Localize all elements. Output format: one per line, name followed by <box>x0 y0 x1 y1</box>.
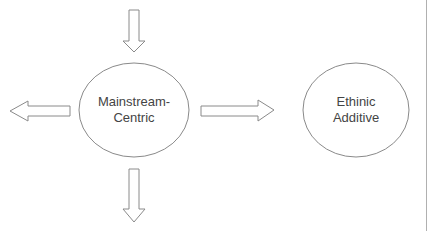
arrow-down-icon <box>123 10 145 52</box>
node-ethnic-additive-label: Ethinic Additive <box>301 94 411 126</box>
node-label-line-1: Mainstream- <box>79 94 189 110</box>
node-label-line-2: Additive <box>301 110 411 126</box>
node-label-line-2: Centric <box>79 110 189 126</box>
diagram-canvas: Mainstream- Centric Ethinic Additive <box>0 0 428 231</box>
node-label-line-1: Ethinic <box>301 94 411 110</box>
arrow-down-icon <box>123 169 145 222</box>
node-mainstream-centric-label: Mainstream- Centric <box>79 94 189 126</box>
right-edge-rule <box>426 0 427 231</box>
arrow-right-icon <box>201 100 274 121</box>
arrow-left-icon <box>10 101 70 121</box>
